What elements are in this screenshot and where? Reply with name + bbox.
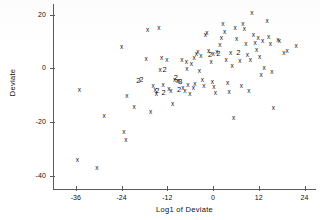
data-point-marker: x [124,137,127,144]
data-point-marker: x [234,25,237,32]
data-point-marker: x [223,29,226,36]
data-point-marker: x [266,18,269,25]
data-point-marker: x [243,26,246,33]
data-point-marker: x [226,80,229,87]
data-point-marker: x [278,38,281,45]
x-axis-tick-label: 12 [255,194,263,202]
data-point-marker: x [160,54,163,61]
x-axis-tick-label: -12 [162,194,172,202]
data-point-marker: x [158,67,161,74]
data-point-marker: x [210,59,213,66]
data-point-marker: x [205,30,208,37]
data-point-marker: x [261,37,264,44]
overlap-count-marker: 2 [177,86,181,94]
x-axis-tick [213,186,214,191]
data-point-marker: x [78,87,81,94]
data-point-marker: x [146,26,149,33]
data-point-marker: x [221,21,224,28]
overlap-count-marker: 2 [155,87,159,95]
overlap-count-marker: 2 [161,89,165,97]
data-point-marker: x [125,93,128,100]
x-axis-tick [122,186,123,191]
y-axis-tick [50,68,55,69]
x-axis-tick-label: 0 [211,194,215,202]
data-point-marker: x [183,87,186,94]
data-point-marker: x [211,51,214,58]
plot-area: -36-24-1201224 200-20-40 xxxxxxxxx2xxxxx… [0,0,320,220]
data-point-marker: x [193,81,196,88]
data-point-marker: x [263,65,266,72]
y-axis-tick [50,122,55,123]
x-axis-tick [76,186,77,191]
x-axis-title: Log1 of Deviate [53,205,316,214]
x-axis-tick-label: -36 [71,194,81,202]
data-point-marker: x [157,25,160,32]
data-point-marker: x [272,105,275,112]
data-point-marker: x [285,48,288,55]
data-point-marker: x [247,88,250,95]
data-point-marker: x [76,157,79,164]
data-point-marker: x [95,165,98,172]
data-point-marker: x [102,112,105,119]
x-axis-tick [167,186,168,191]
data-point-marker: x [214,90,217,97]
data-point-marker: x [259,72,262,79]
data-point-marker: x [238,57,241,64]
data-point-marker: x [269,40,272,47]
y-axis-tick-label: -20 [36,118,46,126]
y-axis-tick-label: -40 [36,172,46,180]
x-axis-line [53,189,316,190]
data-point-marker: x [144,55,147,62]
data-point-marker: x [224,56,227,63]
data-point-marker: x [229,50,232,57]
data-point-marker: x [256,34,259,41]
y-axis-line [53,4,54,190]
data-point-marker: x [235,36,238,43]
data-point-marker: x [122,129,125,136]
data-point-marker: x [249,57,252,64]
x-axis-tick [305,186,306,191]
data-point-marker: x [199,53,202,60]
data-point-marker: x [192,55,195,62]
data-point-marker: x [218,42,221,49]
data-point-marker: x [165,57,168,64]
overlap-count-marker: 2 [163,67,167,75]
data-point-marker: x [202,83,205,90]
overlap-count-marker: 2 [216,50,220,58]
data-point-marker: x [198,68,201,75]
x-axis-tick-label: -24 [116,194,126,202]
y-axis-tick [50,176,55,177]
data-point-marker: x [270,69,273,76]
data-point-marker: x [149,109,152,116]
data-point-marker: x [295,43,298,50]
scatter-plot-screenshot: -36-24-1201224 200-20-40 xxxxxxxxx2xxxxx… [0,0,320,220]
y-axis-tick-label: 20 [38,11,46,19]
y-axis-tick-label: 0 [42,64,46,72]
data-point-marker: x [227,89,230,96]
x-axis-tick [259,186,260,191]
x-axis-tick-label: 24 [301,194,309,202]
data-point-marker: x [231,63,234,70]
data-point-marker: x [240,82,243,89]
data-point-marker: x [186,81,189,88]
data-point-marker: x [133,104,136,111]
data-point-marker: x [171,101,174,108]
data-point-marker: x [258,54,261,61]
data-point-marker: x [220,35,223,42]
overlap-count-marker: 2 [136,77,140,85]
data-point-marker: x [232,115,235,122]
data-point-marker: x [185,66,188,73]
data-point-marker: x [244,41,247,48]
y-axis-tick [50,15,55,16]
data-point-marker: x [180,57,183,64]
data-point-marker: x [169,88,172,95]
y-axis-title: Deviate [8,53,17,113]
data-point-marker: x [120,44,123,51]
data-point-marker: x [250,9,253,16]
data-point-marker: x [188,90,191,97]
